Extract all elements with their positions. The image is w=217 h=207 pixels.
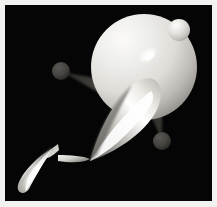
mid-cone [58, 155, 90, 162]
foot-cone [18, 148, 53, 193]
right-dim-sphere [153, 132, 171, 150]
render-canvas: 3D rendered scene [5, 5, 212, 201]
image-frame: 3D rendered scene [0, 0, 217, 207]
head-nub-sphere [168, 19, 190, 41]
left-dim-sphere [52, 62, 70, 80]
rendered-scene: 3D rendered scene [5, 5, 212, 201]
